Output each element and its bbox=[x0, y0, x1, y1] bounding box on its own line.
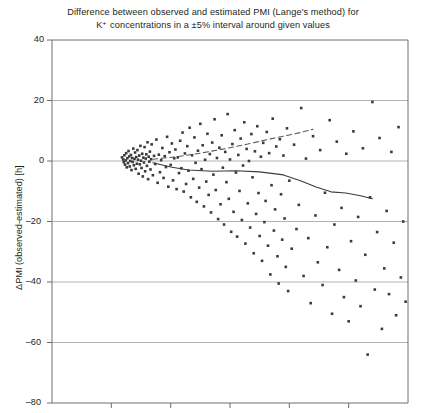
scatter-point bbox=[128, 165, 131, 168]
scatter-point bbox=[232, 211, 235, 214]
scatter-point bbox=[219, 203, 222, 206]
scatter-point bbox=[161, 147, 164, 150]
scatter-point bbox=[175, 188, 178, 191]
scatter-point bbox=[171, 142, 174, 145]
scatter-point bbox=[133, 164, 136, 167]
scatter-point bbox=[206, 132, 209, 135]
scatter-point bbox=[295, 228, 298, 231]
scatter-point bbox=[276, 255, 279, 258]
scatter-point bbox=[218, 146, 221, 149]
scatter-point bbox=[280, 193, 283, 196]
scatter-point bbox=[217, 218, 220, 221]
scatter-point bbox=[139, 163, 142, 166]
scatter-point bbox=[233, 129, 236, 132]
scatter-point bbox=[143, 146, 146, 149]
scatter-point bbox=[255, 213, 258, 216]
scatter-point bbox=[144, 170, 147, 173]
scatter-point bbox=[366, 353, 369, 356]
scatter-point bbox=[178, 172, 181, 175]
scatter-point bbox=[155, 138, 158, 141]
scatter-point bbox=[269, 273, 272, 276]
scatter-point bbox=[163, 155, 166, 158]
scatter-point bbox=[201, 144, 204, 147]
scatter-point bbox=[203, 205, 206, 208]
scatter-point bbox=[390, 151, 393, 154]
scatter-point bbox=[288, 179, 291, 182]
scatter-point bbox=[324, 191, 327, 194]
scatter-point bbox=[385, 210, 388, 213]
scatter-point bbox=[146, 141, 149, 144]
scatter-point bbox=[158, 153, 161, 156]
scatter-point bbox=[174, 148, 177, 151]
scatter-point bbox=[179, 139, 182, 142]
scatter-point bbox=[226, 113, 229, 116]
scatter-point bbox=[251, 176, 254, 179]
scatter-point bbox=[144, 157, 147, 160]
scatter-point bbox=[274, 208, 277, 211]
scatter-point bbox=[146, 165, 149, 168]
scatter-point bbox=[205, 180, 208, 183]
scatter-point bbox=[184, 152, 187, 155]
scatter-point bbox=[378, 137, 381, 140]
scatter-point bbox=[317, 261, 320, 264]
scatter-point bbox=[314, 214, 317, 217]
scatter-point bbox=[220, 134, 223, 137]
scatter-point bbox=[122, 158, 125, 161]
scatter-point bbox=[148, 160, 151, 163]
scatter-point bbox=[262, 142, 265, 145]
scatter-point bbox=[204, 158, 207, 161]
scatter-point bbox=[336, 140, 339, 143]
scatter-point bbox=[136, 149, 139, 152]
scatter-point bbox=[282, 154, 285, 157]
scatter-point bbox=[258, 235, 261, 238]
scatter-point bbox=[228, 198, 231, 201]
scatter-point bbox=[402, 220, 405, 223]
scatter-point bbox=[225, 181, 228, 184]
scatter-point bbox=[333, 223, 336, 226]
scatter-point bbox=[141, 152, 144, 155]
scatter-point bbox=[125, 152, 128, 155]
scatter-point bbox=[214, 189, 217, 192]
scatter-point bbox=[153, 155, 156, 158]
scatter-point bbox=[376, 231, 379, 234]
scatter-point bbox=[137, 158, 140, 161]
scatter-point bbox=[229, 158, 232, 161]
scatter-point bbox=[130, 154, 133, 157]
scatter-point bbox=[247, 202, 250, 205]
scatter-point bbox=[264, 200, 267, 203]
scatter-point bbox=[194, 162, 197, 165]
scatter-point bbox=[343, 296, 346, 299]
scatter-point bbox=[222, 166, 225, 169]
scatter-point bbox=[140, 159, 143, 162]
chart-figure: Difference between observed and estimate… bbox=[0, 0, 424, 413]
scatter-point bbox=[267, 244, 270, 247]
scatter-point bbox=[143, 161, 146, 164]
scatter-point bbox=[284, 266, 287, 269]
scatter-point bbox=[275, 145, 278, 148]
scatter-point bbox=[172, 179, 175, 182]
scatter-point bbox=[256, 125, 259, 128]
scatter-point bbox=[271, 117, 274, 120]
scatter-point bbox=[241, 219, 244, 222]
scatter-point bbox=[350, 240, 353, 243]
axis-ticks bbox=[47, 40, 349, 408]
scatter-point bbox=[166, 136, 169, 139]
scatter-point bbox=[248, 160, 251, 163]
scatter-point bbox=[160, 159, 163, 162]
scatter-point bbox=[129, 160, 132, 163]
scatter-point bbox=[127, 150, 130, 153]
scatter-point bbox=[307, 237, 310, 240]
scatter-point bbox=[162, 177, 165, 180]
scatter-point bbox=[273, 229, 276, 232]
scatter-point bbox=[397, 126, 400, 129]
scatter-point bbox=[249, 226, 252, 229]
scatter-point bbox=[283, 217, 286, 220]
scatter-point bbox=[261, 260, 264, 263]
scatter-point bbox=[230, 230, 233, 233]
trend-lines bbox=[153, 129, 373, 199]
scatter-point bbox=[156, 181, 159, 184]
scatter-point bbox=[392, 241, 395, 244]
scatter-point bbox=[134, 151, 137, 154]
scatter-point bbox=[263, 221, 266, 224]
scatter-point bbox=[186, 145, 189, 148]
